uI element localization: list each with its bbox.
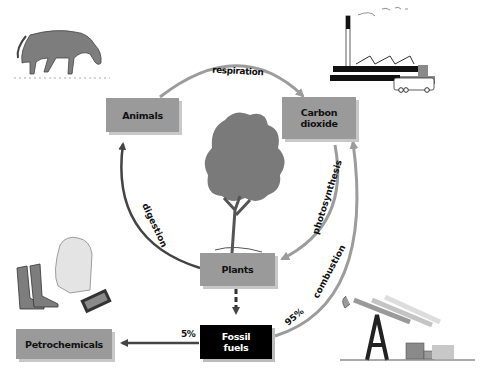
carbon-cycle-diagram: photosynthesis digestion combustion 95% bbox=[0, 0, 486, 375]
node-carbon-dioxide: Carbon dioxide bbox=[282, 97, 356, 139]
tree-illustration bbox=[205, 112, 285, 253]
label-digestion: digestion bbox=[140, 202, 169, 249]
node-carbon-dioxide-line1: Carbon bbox=[301, 107, 337, 118]
node-plants-label: Plants bbox=[222, 264, 254, 275]
node-animals-label: Animals bbox=[122, 110, 163, 121]
label-combustion: combustion bbox=[311, 243, 348, 300]
oil-pumpjack-illustration bbox=[340, 296, 475, 360]
node-petrochemicals-label: Petrochemicals bbox=[25, 339, 103, 350]
node-fossil-fuels-line2: fuels bbox=[224, 342, 249, 353]
node-fossil-fuels: Fossil fuels bbox=[200, 325, 272, 359]
diagram-arrows-and-illustrations: photosynthesis digestion combustion 95% bbox=[0, 0, 486, 375]
node-fossil-fuels-line1: Fossil bbox=[222, 331, 251, 342]
node-plants: Plants bbox=[200, 253, 275, 286]
label-photosynthesis: photosynthesis bbox=[310, 159, 344, 236]
node-animals: Animals bbox=[106, 98, 179, 132]
consumer-goods-illustration bbox=[17, 237, 112, 313]
node-petrochemicals: Petrochemicals bbox=[16, 329, 112, 359]
node-carbon-dioxide-line2: dioxide bbox=[300, 118, 337, 129]
horse-illustration bbox=[14, 31, 110, 78]
factory-illustration bbox=[330, 7, 435, 92]
label-5pct: 5% bbox=[181, 329, 195, 339]
digestion-arrow bbox=[121, 144, 200, 268]
